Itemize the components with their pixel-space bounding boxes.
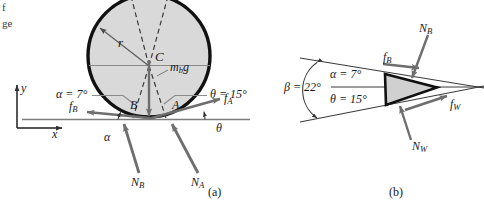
caption-a: (a)	[208, 186, 221, 198]
fA-sub-a: A	[227, 96, 232, 106]
page-edge-fragment-1: f	[2, 2, 6, 13]
force-label-fB-b: fB	[383, 51, 392, 65]
fB-sub-b: B	[386, 55, 391, 65]
angle-alpha-arc-label: α	[104, 131, 110, 143]
NB-sub-a: B	[139, 180, 144, 190]
wedge-friction-W-arrow	[405, 96, 447, 110]
weight-label: mbg	[170, 61, 189, 75]
force-label-NW-b: NW	[412, 140, 427, 154]
NA-sub-a: A	[199, 180, 204, 190]
force-label-fB-a: fB	[69, 100, 78, 114]
angle-alpha-label-b: α = 7°	[330, 68, 361, 80]
angle-theta-arc-label: θ	[216, 122, 222, 134]
body-center-label: C	[155, 50, 164, 63]
force-label-NB-a: NB	[131, 176, 144, 190]
axis-label-y: y	[21, 82, 26, 94]
NB-sub-b: B	[427, 26, 432, 36]
NB-base-b: N	[419, 21, 427, 35]
force-label-NA-a: NA	[191, 176, 204, 190]
theta-angle-arc	[204, 112, 205, 120]
NA-base-a: N	[191, 175, 199, 189]
fW-sub-b: W	[453, 102, 460, 112]
contact-point-B-label: B	[130, 99, 137, 111]
angle-theta-label-b: θ = 15°	[330, 93, 367, 105]
NW-base-b: N	[412, 139, 420, 153]
NB-base-a: N	[131, 175, 139, 189]
figure-root: f ge y x C r mbg B A α = 7° θ = 15° α θ …	[0, 0, 484, 208]
weight-base: m	[170, 60, 179, 74]
angle-beta-label-b: β = 22°	[284, 81, 321, 93]
page-edge-fragment-2: ge	[2, 18, 12, 29]
fB-sub-a: B	[72, 104, 77, 114]
force-label-fA-a: fA	[224, 92, 233, 106]
contact-point-A-label: A	[172, 99, 179, 111]
normal-A-arrow	[172, 124, 198, 173]
axis-label-x: x	[52, 128, 57, 140]
radius-label: r	[118, 36, 123, 49]
force-label-NB-b: NB	[419, 22, 432, 36]
normal-B-arrow	[124, 124, 139, 173]
NW-sub-b: W	[420, 144, 427, 154]
wedge-normal-B-arrow	[412, 35, 428, 78]
caption-b: (b)	[389, 186, 403, 198]
weight-tail: g	[183, 60, 189, 74]
force-label-fW-b: fW	[450, 98, 461, 112]
